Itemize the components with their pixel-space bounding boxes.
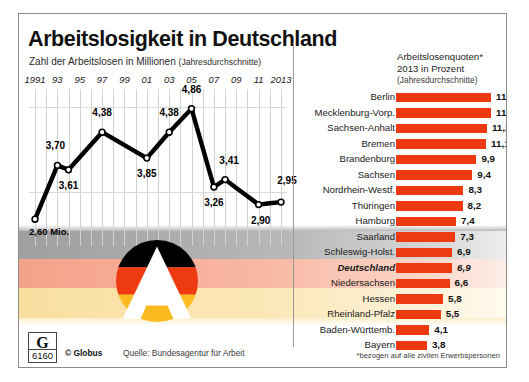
right-panel-bar-chart: Arbeitslosenquoten* 2013 in Prozent (Jah… [295,14,507,367]
bar-row: Nordrhein-Westf.8,3 [295,183,507,199]
data-point-marker [99,129,105,135]
data-point-marker [166,129,172,135]
bar-value-label: 3,8 [432,339,446,350]
bar-category-label: Hessen [362,293,395,304]
bar-category-label: Sachsen [358,169,395,180]
source-text: Quelle: Bundesagentur für Arbeit [123,348,245,358]
bar-category-label: Mecklenburg-Vorp. [314,107,395,118]
data-point-marker [278,199,284,205]
data-point-marker [144,155,150,161]
data-point-label: 3,85 [137,168,156,179]
bar-fill [396,263,452,273]
chart-subtitle: Zahl der Arbeitslosen in Millionen (Jahr… [29,56,261,67]
bar-fill [396,341,427,351]
bar-row: Rheinland-Pfalz5,5 [295,307,507,323]
bar-category-label: Schleswig-Holst. [324,246,395,257]
data-point-label: 2,90 [251,215,270,226]
bar-fill [396,124,487,134]
bar-value-label: 7,4 [461,215,475,226]
bar-fill [396,325,429,335]
data-point-label: 4,38 [159,107,178,118]
data-point-label: 3,41 [219,155,238,166]
panel-divider [293,42,294,347]
bar-fill [396,248,452,258]
bar-category-label: Bremen [361,138,395,149]
bar-row: Thüringen8,2 [295,199,507,215]
data-point-marker [32,216,38,222]
right-header-line3: (Jahresdurchschnitte) [397,75,478,85]
bar-fill [396,294,443,304]
bar-fill [396,186,463,196]
bar-category-label: Saarland [357,231,395,242]
bar-row: Hamburg7,4 [295,214,507,230]
bar-value-label: 8,3 [468,184,482,195]
bar-row: Mecklenburg-Vorp.11,7 [295,106,507,122]
data-point-marker [66,167,72,173]
bar-row: Sachsen-Anhalt11,2 [295,121,507,137]
bar-category-label: Thüringen [352,200,395,211]
bar-fill [396,279,450,289]
bar-category-label: Berlin [370,91,395,102]
subtitle-paren: (Jahresdurchschnitte) [179,57,262,67]
bar-value-label: 6,9 [457,262,471,273]
bar-category-label: Nordrhein-Westf. [323,184,395,195]
copyright-label: © Globus [65,348,102,358]
data-point-label: 3,26 [204,197,223,208]
page-title: Arbeitslosigkeit in Deutschland [28,27,337,52]
data-point-label: 3,61 [59,180,78,191]
infographic-root: Arbeitslosigkeit in Deutschland Zahl der… [0,0,529,382]
bar-category-label: Rheinland-Pfalz [327,308,395,319]
bar-value-label: 11,2 [492,122,507,133]
bundesagentur-fuer-arbeit-logo [116,240,198,322]
bar-category-label: Sachsen-Anhalt [327,122,395,133]
footnote-text: *bezogen auf alle zivilen Erwerbspersone… [356,351,500,360]
line-chart-plot: 1991939597990103050709112013 3,703,614,3… [29,74,287,246]
bar-value-label: 11,7 [496,107,507,118]
bar-row: Berlin11,7 % [295,90,507,106]
data-point-marker [256,202,262,208]
chart-frame: Arbeitslosigkeit in Deutschland Zahl der… [18,13,507,368]
bar-value-label: 11,7 % [496,91,507,102]
bar-value-label: 6,6 [455,277,469,288]
first-data-point-label: 2,60 Mio. [29,226,69,237]
bar-fill [396,310,441,320]
state-unemployment-bar-list: Berlin11,7 %Mecklenburg-Vorp.11,7Sachsen… [295,90,507,354]
bar-row: Niedersachsen6,6 [295,276,507,292]
bar-category-label: Bayern [365,339,395,350]
bar-row: Saarland7,3 [295,230,507,246]
right-header-line2: 2013 in Prozent [397,63,464,74]
bar-row: Hessen5,8 [295,292,507,308]
bar-fill [396,217,456,227]
data-point-label: 4,86 [182,84,201,95]
bar-category-label: Hamburg [356,215,395,226]
unemployment-line [29,74,287,246]
bar-value-label: 9,9 [481,153,495,164]
bar-fill [396,93,491,103]
bar-fill [396,201,463,211]
bar-fill [396,108,491,118]
right-header-line1: Arbeitslosenquoten* [397,51,483,62]
bar-row: Deutschland6,9 [295,261,507,277]
bar-fill [396,155,476,165]
bar-row: Sachsen9,4 [295,168,507,184]
bar-row: Brandenburg9,9 [295,152,507,168]
left-panel-line-chart: Arbeitslosigkeit in Deutschland Zahl der… [19,14,293,367]
line-series-path [35,109,281,220]
data-point-marker [189,106,195,112]
bar-row: Baden-Württemb.4,1 [295,323,507,339]
bar-fill [396,232,455,242]
bar-category-label: Brandenburg [340,153,395,164]
bar-value-label: 6,9 [457,246,471,257]
subtitle-main: Zahl der Arbeitslosen in Millionen [29,56,176,67]
bar-category-label: Niedersachsen [331,277,395,288]
data-point-label: 4,38 [92,107,111,118]
data-point-marker [55,163,61,169]
bar-category-label: Baden-Württemb. [320,324,395,335]
data-point-label: 3,70 [46,140,65,151]
bar-fill [396,139,486,149]
bar-value-label: 5,8 [448,293,462,304]
bar-value-label: 5,5 [446,308,460,319]
data-point-marker [222,177,228,183]
bar-value-label: 11,1 [491,138,507,149]
bar-value-label: 4,1 [434,324,448,335]
